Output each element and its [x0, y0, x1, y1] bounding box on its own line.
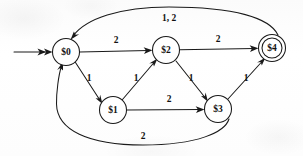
edge-s2-s4: 2	[180, 34, 259, 52]
edge-label-s1-s2: 1	[134, 73, 139, 83]
node-s4-accepting[interactable]: $4	[259, 35, 286, 62]
edge-label-s0-s2: 2	[114, 35, 119, 45]
edge-s1-s2: 1	[123, 59, 158, 100]
edge-s3-s4: 1	[228, 58, 266, 100]
node-s3[interactable]: $3	[205, 96, 232, 123]
node-s1-label: $1	[108, 105, 118, 115]
edge-label-s2-s4: 2	[216, 34, 221, 44]
node-s2-label: $2	[161, 45, 171, 55]
node-s4-label: $4	[267, 43, 277, 53]
edge-s0-s1: 1	[76, 63, 103, 105]
node-s2[interactable]: $2	[153, 37, 180, 64]
state-diagram: 2 2 1, 2 1 1 1	[0, 0, 303, 156]
edge-s1-s3-line	[127, 109, 201, 110]
edge-s2-s3: 1	[176, 61, 208, 102]
edge-s1-s2-line	[123, 62, 155, 100]
edge-label-s4-s0: 1, 2	[162, 13, 177, 23]
edge-s1-s3: 2	[127, 94, 205, 113]
edge-label-s3-s0: 2	[141, 131, 146, 141]
node-s0[interactable]: $0	[53, 39, 80, 66]
edge-s2-s4-line	[180, 48, 255, 49]
edge-label-s2-s3: 1	[189, 73, 194, 83]
edge-s0-s2: 2	[80, 35, 153, 54]
edge-s4-s0-arrowhead	[71, 32, 80, 40]
edge-label-s1-s3: 2	[167, 94, 172, 104]
edge-label-s0-s1: 1	[87, 73, 92, 83]
node-s0-label: $0	[61, 47, 71, 57]
edge-label-s3-s4: 1	[244, 73, 249, 83]
edge-s0-s2-line	[80, 50, 149, 52]
edge-start-arrow	[14, 49, 53, 56]
graph-canvas: 2 2 1, 2 1 1 1	[0, 0, 303, 156]
node-s3-label: $3	[213, 104, 223, 114]
node-s1[interactable]: $1	[100, 97, 127, 124]
edge-s4-s0: 1, 2	[71, 7, 279, 40]
